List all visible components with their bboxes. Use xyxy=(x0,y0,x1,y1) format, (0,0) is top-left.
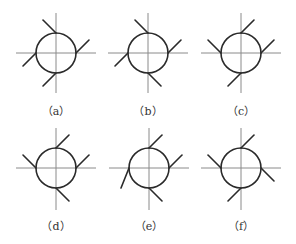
tick-left xyxy=(121,168,129,188)
tick-left xyxy=(23,155,36,168)
tick-top xyxy=(135,20,148,33)
tick-bottom xyxy=(228,73,241,86)
panel-a: （a） xyxy=(16,13,96,118)
tick-top xyxy=(241,20,254,33)
tick-top xyxy=(241,135,254,148)
tick-right xyxy=(261,40,274,53)
tick-right xyxy=(76,40,89,53)
tick-left xyxy=(115,53,128,66)
tick-right xyxy=(76,155,89,168)
tick-top xyxy=(149,135,162,148)
tick-right xyxy=(261,168,274,181)
figure-canvas: （a） （b） （c） （d） xyxy=(0,0,296,244)
tick-bottom xyxy=(43,73,56,86)
tick-bottom xyxy=(148,73,161,86)
panel-c: （c） xyxy=(201,13,281,118)
panel-label: （e） xyxy=(135,220,164,233)
panel-label: （d） xyxy=(41,220,70,233)
tick-right xyxy=(169,155,182,168)
tick-top xyxy=(43,20,56,33)
panel-f: （f） xyxy=(201,128,281,233)
tick-right xyxy=(168,40,181,53)
panel-e: （e） xyxy=(109,128,189,233)
panel-label: （f） xyxy=(228,220,254,233)
tick-bottom xyxy=(149,188,162,201)
tick-left xyxy=(23,53,36,66)
panel-label: （c） xyxy=(227,105,255,118)
panel-d: （d） xyxy=(16,128,96,233)
panel-b: （b） xyxy=(108,13,188,118)
panel-label: （a） xyxy=(42,105,71,118)
tick-bottom xyxy=(228,188,241,201)
tick-left xyxy=(208,40,221,53)
tick-bottom xyxy=(56,188,69,201)
panel-label: （b） xyxy=(133,105,162,118)
tick-top xyxy=(56,135,69,148)
tick-left xyxy=(208,155,221,168)
